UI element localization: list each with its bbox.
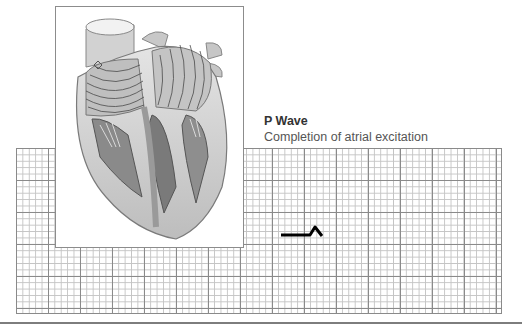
p-wave-trace: [278, 222, 328, 242]
heart-illustration-frame: [55, 6, 244, 248]
wave-label: P Wave Completion of atrial excitation: [264, 113, 428, 145]
wave-description: Completion of atrial excitation: [264, 129, 428, 145]
wave-title: P Wave: [264, 113, 428, 129]
heart-icon: [56, 7, 245, 249]
divider-line: [0, 322, 522, 324]
